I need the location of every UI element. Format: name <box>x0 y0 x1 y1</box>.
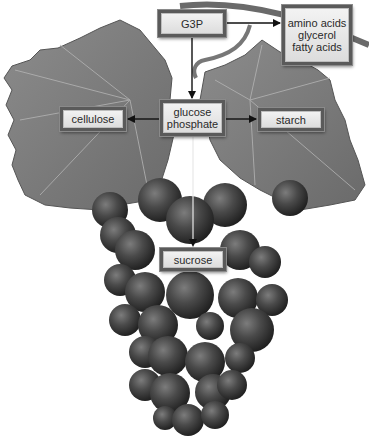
glucose-phosphate-box: glucose phosphate <box>160 100 225 136</box>
g3p-box: G3P <box>158 10 226 37</box>
amino-glycerol-fatty-box: amino acids glycerol fatty acids <box>282 5 352 65</box>
grape-illustration <box>0 0 369 438</box>
g3p-label: G3P <box>181 18 203 30</box>
cellulose-label: cellulose <box>72 113 115 125</box>
sucrose-box: sucrose <box>160 248 226 271</box>
starch-box: starch <box>258 108 324 131</box>
sucrose-label: sucrose <box>174 254 213 266</box>
starch-label: starch <box>276 114 306 126</box>
fatty-acids-label: fatty acids <box>292 41 342 53</box>
phosphate-label: phosphate <box>167 118 218 130</box>
cellulose-box: cellulose <box>60 107 126 131</box>
glucose-label: glucose <box>174 106 212 118</box>
grape-cluster <box>92 178 308 436</box>
glycerol-label: glycerol <box>298 29 336 41</box>
amino-acids-label: amino acids <box>288 17 347 29</box>
